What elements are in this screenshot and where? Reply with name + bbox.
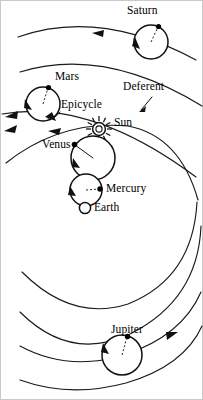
direction-arrow-mars-deferent bbox=[4, 125, 17, 133]
label-deferent: Deferent bbox=[123, 81, 164, 93]
label-epicycle: Epicycle bbox=[61, 99, 102, 111]
deferent-pointer-arrowhead bbox=[139, 106, 146, 112]
earth-circle bbox=[79, 202, 90, 213]
label-saturn: Saturn bbox=[127, 5, 158, 17]
venus-epicycle-group bbox=[71, 136, 115, 180]
mars-planet-dot bbox=[46, 85, 51, 90]
deferent-arc-saturn bbox=[18, 27, 196, 60]
venus-planet-dot bbox=[72, 142, 78, 148]
figure-root: Saturn Mars Deferent Epicycle Sun Venus … bbox=[0, 0, 203, 400]
sun-disc bbox=[93, 123, 106, 136]
label-venus: Venus bbox=[42, 139, 71, 151]
jupiter-epicycle-group bbox=[101, 334, 142, 375]
deferent-pointer-line bbox=[141, 97, 152, 110]
mars-epicycle-group bbox=[24, 85, 60, 121]
direction-arrow-sun-deferent bbox=[48, 128, 61, 135]
direction-arrow-saturn bbox=[92, 30, 104, 37]
mercury-planet-dot bbox=[97, 186, 102, 191]
label-mercury: Mercury bbox=[106, 183, 146, 195]
deferent-label-pointer-group bbox=[139, 97, 152, 112]
label-mars: Mars bbox=[55, 71, 79, 83]
direction-arrow-jupiter-deferent bbox=[166, 332, 178, 340]
saturn-planet-dot bbox=[156, 24, 161, 29]
label-earth: Earth bbox=[94, 202, 119, 214]
label-jupiter: Jupiter bbox=[111, 324, 143, 336]
deferent-arc-sun-lower bbox=[22, 202, 197, 309]
saturn-epicycle-group bbox=[132, 24, 168, 59]
epicycle-diagram bbox=[0, 0, 203, 400]
label-sun: Sun bbox=[114, 117, 132, 129]
figure-border bbox=[1, 1, 203, 400]
